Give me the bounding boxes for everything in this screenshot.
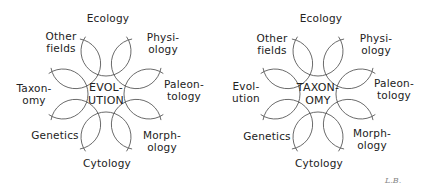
label-ecology: Ecology <box>300 12 342 24</box>
label-paleontology: Paleon- tology <box>374 77 414 101</box>
label-ecology: Ecology <box>87 12 129 24</box>
taxonomy-diagram: TAXON- OMY Ecology Physi- ology Paleon- … <box>213 0 426 190</box>
label-morphology: Morph- ology <box>143 129 181 153</box>
label-genetics: Genetics <box>31 129 79 141</box>
label-evolution: Evol- ution <box>232 80 260 104</box>
label-physiology: Physi- ology <box>147 31 180 55</box>
label-genetics: Genetics <box>243 130 291 142</box>
evolution-diagram: EVOL- UTION Ecology Physi- ology Paleon-… <box>0 0 213 190</box>
label-taxonomy: Taxon- omy <box>16 82 51 106</box>
label-morphology: Morph- ology <box>353 127 391 151</box>
signature: L.B. <box>385 176 401 185</box>
label-cytology: Cytology <box>83 157 131 169</box>
center-label: EVOL- UTION <box>88 81 124 107</box>
label-other-fields: Other fields <box>257 32 288 56</box>
label-physiology: Physi- ology <box>360 32 393 56</box>
center-label: TAXON- OMY <box>297 81 339 107</box>
label-paleontology: Paleon- tology <box>164 78 204 102</box>
label-other-fields: Other fields <box>46 30 77 54</box>
label-cytology: Cytology <box>295 157 343 169</box>
